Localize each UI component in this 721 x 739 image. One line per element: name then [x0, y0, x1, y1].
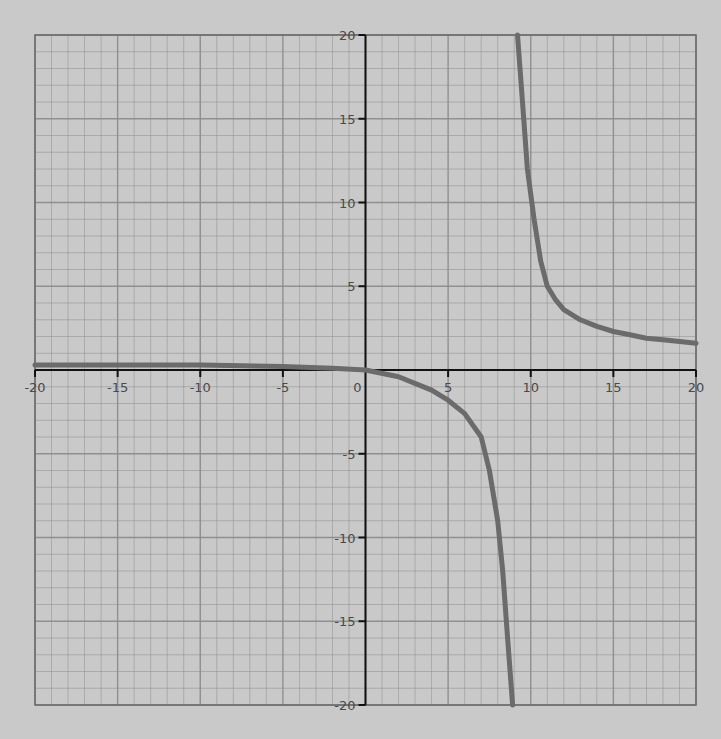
x-tick-label: 10	[522, 380, 539, 395]
y-tick-label: -5	[343, 447, 356, 462]
x-tick-label: 5	[444, 380, 452, 395]
x-tick-label: 20	[688, 380, 705, 395]
y-tick-label: -15	[334, 614, 355, 629]
x-tick-label: -20	[24, 380, 45, 395]
x-tick-label: 0	[353, 380, 361, 395]
y-tick-label: -10	[334, 531, 355, 546]
y-tick-label: 10	[339, 196, 356, 211]
y-tick-label: 20	[339, 28, 356, 43]
x-tick-label: -15	[107, 380, 128, 395]
y-tick-label: 15	[339, 112, 356, 127]
x-tick-label: -5	[276, 380, 289, 395]
y-tick-label: -20	[334, 698, 355, 713]
graph-stage: -20-15-10-5051015202015105-5-10-15-20	[0, 0, 721, 739]
curve-branch	[518, 35, 697, 343]
function-graph: -20-15-10-5051015202015105-5-10-15-20	[0, 0, 721, 739]
y-tick-label: 5	[347, 279, 355, 294]
curve-branch	[35, 365, 513, 705]
x-tick-label: -10	[190, 380, 211, 395]
x-tick-label: 15	[605, 380, 622, 395]
